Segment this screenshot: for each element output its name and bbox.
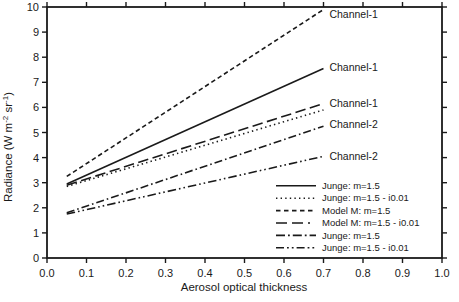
y-tick-label: 1: [33, 227, 39, 239]
line-chart: 0.00.10.20.30.40.50.60.70.80.91.00123456…: [0, 0, 459, 302]
series-line-longdash-channel-1: [67, 104, 324, 186]
x-tick-label: 0.3: [158, 267, 173, 279]
y-tick-label: 9: [33, 26, 39, 38]
x-tick-label: 0.6: [276, 267, 291, 279]
channel-annotation: Channel-1: [329, 8, 378, 20]
x-tick-label: 1.0: [434, 267, 449, 279]
legend-label: Model M: m=1.5: [322, 205, 390, 216]
legend: Junge: m=1.5Junge: m=1.5 - i0.01Model M:…: [276, 180, 419, 253]
y-tick-label: 10: [27, 1, 39, 13]
radiance-vs-aot-figure: 0.00.10.20.30.40.50.60.70.80.91.00123456…: [0, 0, 459, 302]
y-axis-label-part: Radiance (W m: [2, 123, 14, 202]
series-line-dotted-channel-1: [67, 110, 324, 187]
series-line-dashdot-channel-2: [67, 126, 324, 213]
x-tick-label: 0.5: [237, 267, 252, 279]
legend-label: Junge: m=1.5 - i0.01: [322, 242, 409, 253]
y-axis-label-part: sr: [2, 103, 14, 116]
y-axis-label: Radiance (W m-2 sr-1): [1, 92, 14, 202]
channel-annotation: Channel-2: [329, 118, 378, 130]
annotation-layer: Channel-1Channel-1Channel-1Channel-2Chan…: [329, 8, 378, 162]
x-tick-label: 0.4: [197, 267, 212, 279]
channel-annotation: Channel-1: [329, 97, 378, 109]
legend-label: Junge: m=1.5: [322, 180, 380, 191]
y-tick-label: 6: [33, 101, 39, 113]
legend-label: Junge: m=1.5 - i0.01: [322, 192, 409, 203]
x-tick-label: 0.7: [316, 267, 331, 279]
x-tick-label: 0.2: [118, 267, 133, 279]
x-tick-label: 0.0: [39, 267, 54, 279]
series-line-dash-channel-1: [67, 10, 324, 177]
series-line-solid-channel-1: [67, 68, 324, 183]
y-tick-label: 0: [33, 252, 39, 264]
y-axis-label-part: ): [2, 92, 14, 96]
legend-label: Model M: m=1.5 - i0.01: [322, 217, 419, 228]
y-tick-label: 5: [33, 127, 39, 139]
y-tick-label: 2: [33, 202, 39, 214]
y-tick-label: 4: [33, 152, 39, 164]
y-tick-label: 7: [33, 76, 39, 88]
x-axis-label: Aerosol optical thickness: [181, 281, 308, 293]
legend-label: Junge: m=1.5: [322, 230, 380, 241]
x-tick-label: 0.8: [355, 267, 370, 279]
series-layer: [67, 10, 324, 215]
y-tick-label: 8: [33, 51, 39, 63]
tick-layer: 0.00.10.20.30.40.50.60.70.80.91.00123456…: [27, 1, 450, 279]
x-tick-label: 0.1: [79, 267, 94, 279]
channel-annotation: Channel-1: [329, 61, 378, 73]
y-tick-label: 3: [33, 177, 39, 189]
x-tick-label: 0.9: [395, 267, 410, 279]
channel-annotation: Channel-2: [329, 150, 378, 162]
